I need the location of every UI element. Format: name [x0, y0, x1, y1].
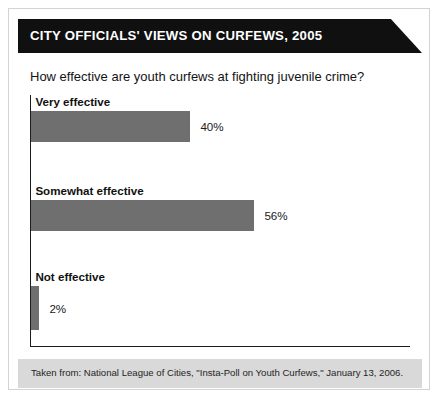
- chart-question: How effective are youth curfews at fight…: [30, 69, 364, 84]
- bar-group: Not effective 2%: [31, 270, 105, 330]
- bar-group: Very effective 40%: [31, 95, 223, 142]
- bar-category-label: Somewhat effective: [35, 184, 287, 197]
- bar-category-label: Not effective: [35, 270, 105, 283]
- bar-rect[interactable]: [31, 286, 39, 330]
- source-band: Taken from: National League of Cities, "…: [18, 359, 422, 388]
- bar-group: Somewhat effective 56%: [31, 184, 287, 231]
- bar-row: 40%: [31, 111, 223, 142]
- bar-chart-plot: Very effective 40% Somewhat effective 56…: [30, 95, 412, 351]
- bar-rect[interactable]: [31, 111, 190, 142]
- source-attribution: Taken from: National League of Cities, "…: [31, 367, 403, 378]
- bar-value-label: 2%: [49, 302, 66, 315]
- bar-value-label: 40%: [200, 120, 223, 133]
- bar-category-label: Very effective: [35, 95, 223, 108]
- bar-row: 56%: [31, 200, 287, 231]
- page-title: CITY OFFICIALS' VIEWS ON CURFEWS, 2005: [30, 28, 322, 43]
- bar-value-label: 56%: [264, 209, 287, 222]
- bar-rect[interactable]: [31, 200, 254, 231]
- title-banner: CITY OFFICIALS' VIEWS ON CURFEWS, 2005: [18, 19, 422, 53]
- figure-card: CITY OFFICIALS' VIEWS ON CURFEWS, 2005 H…: [8, 8, 430, 390]
- x-axis-line: [30, 346, 410, 347]
- bar-row: 2%: [31, 286, 105, 330]
